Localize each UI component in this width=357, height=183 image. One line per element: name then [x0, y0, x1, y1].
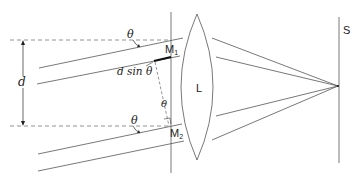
- path-difference-segment: [154, 57, 171, 61]
- screen-label: S: [343, 25, 350, 36]
- ray-2-outgoing: [216, 57, 338, 86]
- M2-label: M2: [170, 128, 183, 140]
- theta-label-bottom: θ: [131, 115, 138, 126]
- ray-4-incoming: [38, 141, 184, 171]
- lens-label: L: [196, 83, 202, 94]
- ray-1-outgoing: [212, 38, 338, 86]
- M2-text: M: [170, 127, 179, 139]
- M2-subscript: 2: [179, 133, 183, 140]
- arrow-up-icon: [21, 40, 25, 45]
- M1-label: M1: [165, 44, 178, 56]
- d-sin-theta-text: d sin θ: [117, 65, 152, 77]
- focal-point: [337, 85, 339, 87]
- theta-label-top: θ: [127, 29, 134, 40]
- diagram-canvas: [0, 0, 357, 183]
- ray-4-outgoing: [212, 86, 338, 140]
- perpendicular-dashed: [155, 62, 169, 126]
- ray-3-outgoing: [216, 86, 338, 116]
- M1-subscript: 1: [174, 49, 178, 56]
- d-sin-theta-label: d sin θ: [117, 66, 152, 77]
- theta-label-mid: θ: [161, 99, 167, 109]
- ray-3-incoming: [38, 124, 182, 154]
- d-label: d: [18, 76, 26, 88]
- M1-text: M: [165, 43, 174, 55]
- ray-1-incoming: [39, 38, 183, 68]
- arrow-down-icon: [21, 121, 25, 126]
